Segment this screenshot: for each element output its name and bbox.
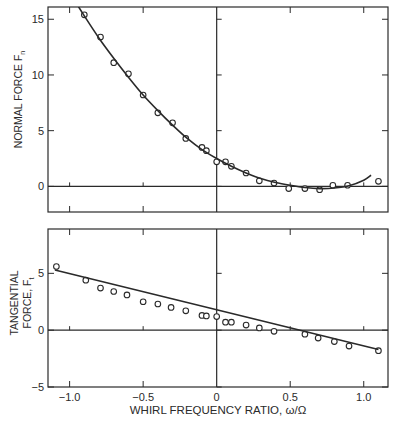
- data-point-marker: [243, 322, 249, 328]
- data-point-marker: [124, 292, 130, 298]
- data-point-marker: [376, 179, 382, 185]
- y-tick-label: 15: [32, 13, 44, 25]
- y-tick-label: 10: [32, 69, 44, 81]
- y-tick-label: 0: [38, 180, 44, 192]
- data-point-marker: [286, 186, 292, 192]
- y-axis-label: TANGENTIAL: [8, 270, 20, 335]
- data-point-marker: [257, 325, 263, 331]
- fit-curve: [70, 0, 371, 189]
- y-tick-label: 5: [38, 125, 44, 137]
- y-tick-label: 0: [38, 324, 44, 336]
- data-point-marker: [140, 299, 146, 305]
- data-point-marker: [346, 343, 352, 349]
- y-axis-label-subscript: n: [19, 51, 26, 55]
- chart-figure: 051015NORMAL FORCE Fn −1.0−0.500.51.0−50…: [0, 0, 397, 424]
- y-axis-label: FORCE, Ft: [21, 277, 35, 328]
- x-tick-label: 0.5: [283, 391, 298, 403]
- y-axis-label-subscript: t: [28, 277, 35, 279]
- data-point-marker: [168, 305, 174, 311]
- data-point-marker: [155, 301, 161, 307]
- plot-frame: [48, 229, 388, 387]
- data-point-marker: [204, 313, 210, 319]
- data-point-marker: [214, 314, 220, 320]
- data-point-marker: [315, 335, 321, 341]
- data-point-marker: [223, 319, 229, 325]
- data-point-marker: [54, 264, 60, 270]
- x-axis-label: WHIRL FREQUENCY RATIO, ω/Ω: [130, 404, 307, 416]
- data-point-marker: [111, 289, 117, 295]
- y-axis-label: NORMAL FORCE Fn: [12, 51, 26, 149]
- data-point-marker: [183, 308, 189, 314]
- y-tick-label: −5: [31, 381, 44, 393]
- x-tick-label: −1.0: [59, 391, 81, 403]
- y-tick-label: 5: [38, 267, 44, 279]
- x-tick-label: 1.0: [356, 391, 371, 403]
- data-point-marker: [271, 329, 277, 335]
- data-point-marker: [229, 319, 235, 325]
- tangential-force-panel: −1.0−0.500.51.0−505TANGENTIALFORCE, Ft: [8, 229, 388, 403]
- normal-force-panel: 051015NORMAL FORCE Fn: [12, 0, 388, 212]
- x-tick-label: −0.5: [132, 391, 154, 403]
- data-point-marker: [98, 285, 104, 291]
- x-tick-label: 0: [214, 391, 220, 403]
